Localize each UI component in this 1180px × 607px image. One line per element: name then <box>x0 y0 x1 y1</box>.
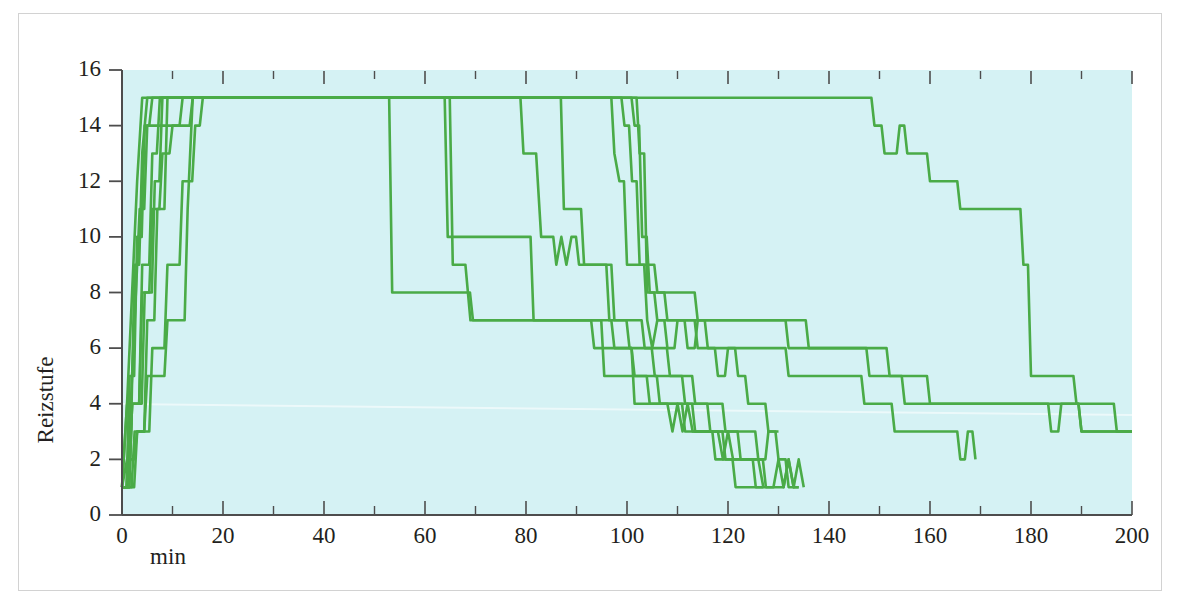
y-tick-label: 6 <box>90 334 102 359</box>
y-tick-label: 10 <box>78 223 101 248</box>
x-tick-label: 40 <box>313 523 336 548</box>
x-tick-label: 200 <box>1115 523 1150 548</box>
x-tick-label: 0 <box>116 523 128 548</box>
x-tick-label: 80 <box>515 523 538 548</box>
x-tick-label: 180 <box>1014 523 1049 548</box>
chart-svg: 020406080100120140160180200 024681012141… <box>0 0 1180 607</box>
x-tick-label: 140 <box>812 523 847 548</box>
x-tick-label: 20 <box>212 523 235 548</box>
y-axis-title: Reizstufe <box>33 357 58 444</box>
y-axis-ticks <box>109 70 122 515</box>
y-tick-label: 8 <box>90 279 102 304</box>
x-tick-label: 100 <box>610 523 645 548</box>
x-tick-label: 60 <box>414 523 437 548</box>
x-tick-label: 160 <box>913 523 948 548</box>
y-axis-tick-labels: 0246810121416 <box>78 56 102 526</box>
y-tick-label: 12 <box>78 168 101 193</box>
plot-background <box>122 70 1132 515</box>
y-tick-label: 0 <box>90 501 102 526</box>
y-tick-label: 14 <box>78 112 102 137</box>
y-tick-label: 2 <box>90 446 102 471</box>
figure-container: 020406080100120140160180200 024681012141… <box>0 0 1180 607</box>
x-axis-title: min <box>150 544 186 569</box>
x-tick-label: 120 <box>711 523 746 548</box>
y-tick-label: 16 <box>78 56 101 81</box>
y-tick-label: 4 <box>90 390 102 415</box>
x-axis-tick-labels: 020406080100120140160180200 <box>116 523 1149 548</box>
